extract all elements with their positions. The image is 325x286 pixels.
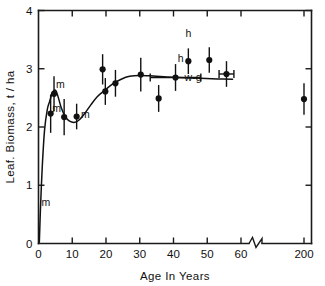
y-tick-label: 4 bbox=[26, 5, 33, 17]
data-point bbox=[112, 70, 118, 97]
x-axis-break-symbol bbox=[249, 238, 262, 248]
data-point bbox=[138, 58, 144, 92]
data-point bbox=[219, 61, 234, 87]
y-axis-ticks bbox=[39, 11, 312, 186]
point-annotation: w-g bbox=[184, 71, 202, 83]
chart-axes bbox=[39, 11, 312, 248]
data-point bbox=[301, 83, 307, 114]
y-axis-tick-labels: 01234 bbox=[26, 5, 33, 250]
point-annotation: h bbox=[185, 27, 191, 39]
x-axis-title: Age In Years bbox=[140, 270, 210, 282]
x-tick-label: 10 bbox=[66, 248, 79, 260]
data-point bbox=[156, 85, 162, 112]
y-tick-label: 2 bbox=[26, 121, 32, 133]
x-axis-ticks bbox=[72, 11, 304, 244]
y-tick-label: 0 bbox=[26, 238, 32, 250]
data-point bbox=[74, 104, 80, 130]
point-annotation: m bbox=[52, 102, 61, 114]
point-annotation: m bbox=[42, 196, 51, 208]
x-tick-label: 60 bbox=[235, 248, 248, 260]
fit-curve-group bbox=[39, 75, 232, 242]
leaf-biomass-scatter-chart: 0102030405060200 01234 mmmmhhw-g Age In … bbox=[0, 0, 325, 286]
data-point bbox=[61, 99, 67, 135]
y-axis-title: Leaf. Biomass, t / ha bbox=[4, 70, 16, 183]
data-point bbox=[206, 47, 212, 73]
x-tick-label: 0 bbox=[35, 248, 41, 260]
y-tick-label: 1 bbox=[26, 179, 32, 191]
point-annotation: h bbox=[178, 52, 184, 64]
point-annotation: m bbox=[81, 108, 90, 120]
x-tick-label: 30 bbox=[133, 248, 146, 260]
point-annotation: m bbox=[56, 78, 65, 90]
x-tick-label: 50 bbox=[201, 248, 214, 260]
x-tick-label: 200 bbox=[294, 248, 313, 260]
figure-container: 0102030405060200 01234 mmmmhhw-g Age In … bbox=[0, 0, 325, 286]
y-tick-label: 3 bbox=[26, 63, 32, 75]
fit-curve bbox=[39, 75, 232, 242]
x-tick-label: 20 bbox=[100, 248, 113, 260]
axis-frame bbox=[39, 11, 312, 244]
x-tick-label: 40 bbox=[167, 248, 180, 260]
x-axis-tick-labels: 0102030405060200 bbox=[35, 248, 313, 260]
